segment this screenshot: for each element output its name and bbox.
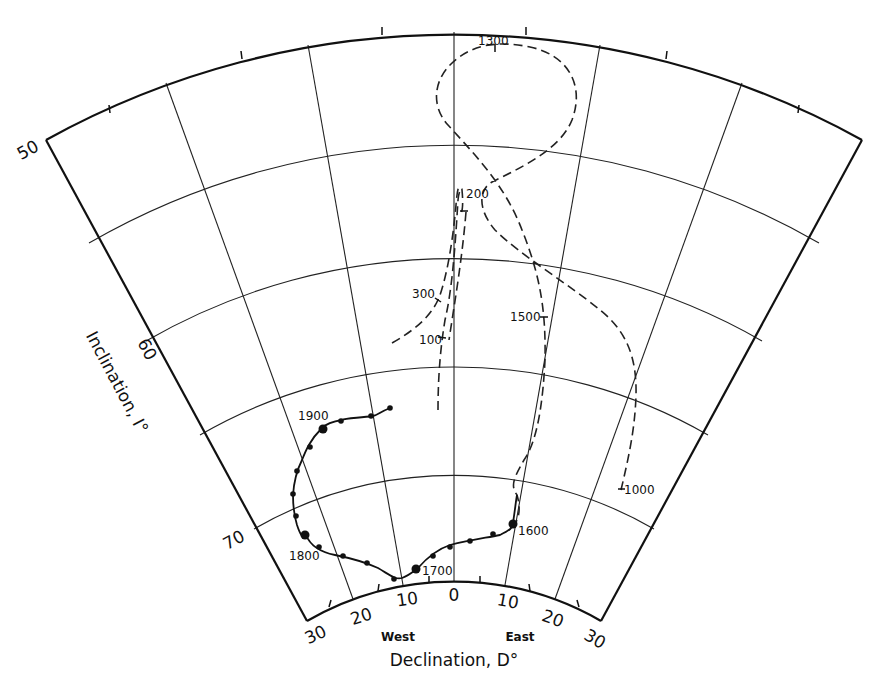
dot-1600 (509, 520, 518, 529)
label-1300: 1300 (478, 34, 509, 48)
x-tick-w10: 10 (395, 588, 419, 611)
declination-inclination-chart: 50 60 70 Inclination, I° 30 20 10 0 10 2… (0, 0, 883, 681)
solid-series (290, 405, 517, 582)
dashed-curve-1000-1600 (436, 44, 636, 522)
solid-curve-1600-1960 (293, 408, 517, 578)
label-1900: 1900 (298, 409, 329, 423)
x-tick-e30: 30 (581, 625, 610, 653)
label-300: 300 (412, 287, 435, 301)
west-label: West (381, 630, 415, 644)
dashed-curve-early-a (438, 188, 463, 410)
label-1500: 1500 (510, 310, 541, 324)
grid-radial-w10 (308, 45, 403, 585)
y-tick-60: 60 (133, 335, 161, 363)
dashed-series (392, 44, 636, 522)
grid-radial-e20 (555, 83, 742, 599)
dashed-curve-early-b (392, 186, 460, 343)
dot-1700 (412, 565, 421, 574)
x-axis-title: Declination, D° (390, 650, 519, 670)
x-tick-e10: 10 (496, 589, 521, 612)
dot-1800 (301, 531, 310, 540)
label-1600: 1600 (518, 524, 549, 538)
solid-dots (290, 405, 517, 582)
x-tick-0: 0 (449, 585, 460, 605)
y-tick-50: 50 (13, 136, 41, 164)
dot-1900 (319, 425, 328, 434)
label-200: 200 (466, 187, 489, 201)
grid-radial-w20 (166, 83, 353, 599)
y-tick-70: 70 (219, 526, 247, 554)
label-1800: 1800 (289, 549, 320, 563)
grid (89, 32, 819, 599)
label-1000: 1000 (624, 483, 655, 497)
east-label: East (505, 630, 534, 644)
x-tick-w20: 20 (348, 603, 375, 629)
label-1700: 1700 (422, 564, 453, 578)
x-tick-w30: 30 (301, 621, 329, 648)
dashed-curve-early-c (449, 212, 466, 340)
x-tick-e20: 20 (539, 605, 566, 631)
left-edge (46, 140, 307, 621)
label-100: 100 (419, 333, 442, 347)
right-edge (601, 140, 862, 621)
